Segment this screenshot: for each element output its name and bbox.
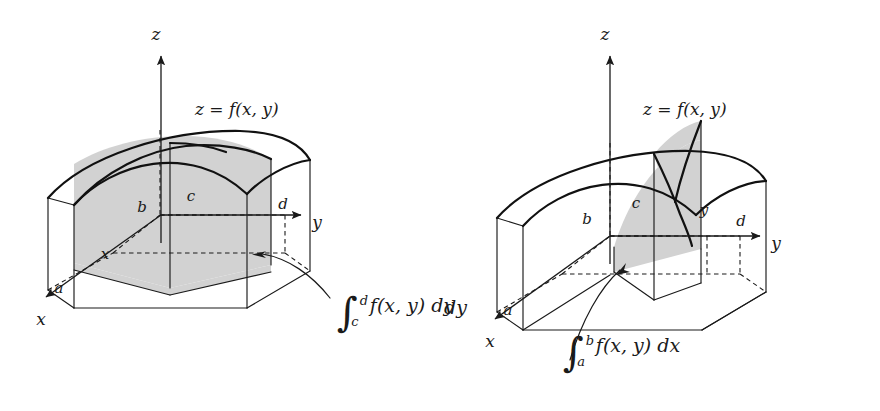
shaded-cross-section bbox=[614, 120, 702, 272]
tick-label-c: c bbox=[632, 194, 641, 212]
integrand-right: f(x, y) bbox=[586, 334, 651, 356]
integral-sign-left: ∫dc bbox=[337, 296, 360, 328]
base-right-edge bbox=[247, 271, 310, 308]
surface-left-rim-curve bbox=[48, 198, 74, 205]
axis-label-y: y bbox=[311, 212, 322, 232]
differential-right: dx bbox=[651, 334, 680, 356]
left-diagram-panel: z y x a b c d x z = f(x, y) bbox=[0, 0, 440, 411]
callout-leader-curve bbox=[262, 254, 330, 298]
tick-label-d: d bbox=[736, 212, 746, 230]
integrand-left: f(x, y) bbox=[360, 294, 425, 316]
integral-upper-limit-left: d bbox=[360, 294, 368, 307]
tick-label-x: x bbox=[101, 245, 110, 263]
double-integral-figure: z y x a b c d x z = f(x, y) ∫dcf(x, y)dy bbox=[0, 0, 880, 411]
dashed-base-far-vertical bbox=[740, 274, 766, 292]
surface-equation-label: z = f(x, y) bbox=[642, 99, 727, 119]
surface-equation-label: z = f(x, y) bbox=[194, 99, 279, 119]
axis-label-x: x bbox=[485, 331, 495, 351]
axis-label-z: z bbox=[600, 24, 611, 44]
axis-label-z: z bbox=[151, 24, 162, 44]
tick-label-d: d bbox=[278, 195, 288, 213]
tick-label-y-slice: y bbox=[699, 201, 709, 219]
tick-label-a: a bbox=[55, 279, 64, 297]
integral-lower-limit-left: c bbox=[351, 315, 358, 328]
tick-label-a: a bbox=[504, 301, 513, 319]
integral-sign-right: ∫ba bbox=[563, 336, 586, 368]
cropped-dy-fragment: dy bbox=[444, 296, 467, 318]
slab-base-right bbox=[654, 283, 701, 300]
slab-base-left bbox=[614, 272, 654, 300]
base-diagonal-right bbox=[702, 292, 766, 330]
axis-label-x: x bbox=[36, 309, 46, 329]
tick-label-c: c bbox=[187, 187, 196, 205]
integral-lower-limit-right: a bbox=[577, 355, 585, 368]
base-diagonal-left bbox=[523, 275, 610, 330]
tick-label-b: b bbox=[582, 210, 592, 228]
integral-upper-limit-right: b bbox=[586, 334, 594, 347]
surface-left-rim bbox=[497, 218, 523, 226]
axis-label-y: y bbox=[770, 233, 781, 253]
left-integral-expression: ∫dcf(x, y)dy bbox=[337, 296, 454, 328]
right-integral-expression: ∫baf(x, y)dx bbox=[563, 336, 680, 368]
shaded-cross-section bbox=[73, 128, 272, 295]
tick-label-b: b bbox=[137, 198, 147, 216]
